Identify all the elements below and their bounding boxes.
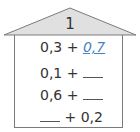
answer-blank[interactable] <box>40 111 60 122</box>
plus-sign: + <box>67 87 79 103</box>
house-body: 0,3 + 0,7 0,1 + 0,6 + + 0,2 <box>14 35 123 128</box>
answer-blank[interactable] <box>83 89 103 100</box>
addend-left: 0,6 <box>40 87 62 103</box>
plus-sign: + <box>67 39 79 55</box>
addend-right: 0,2 <box>81 109 103 125</box>
plus-sign: + <box>67 65 79 81</box>
addend-left: 0,3 <box>40 39 62 55</box>
roof-number: 1 <box>0 15 140 33</box>
answer-blank[interactable] <box>83 67 103 78</box>
plus-sign: + <box>64 109 76 125</box>
addend-left: 0,1 <box>40 65 62 81</box>
answer-field[interactable]: 0,7 <box>83 39 105 55</box>
